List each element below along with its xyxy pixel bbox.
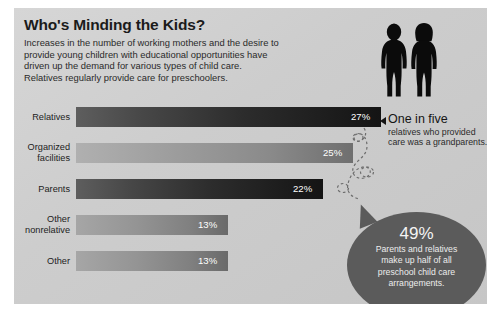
- two-children-silhouettes-icon: [369, 20, 449, 100]
- circle-text: 49% Parents and relatives make up half o…: [347, 224, 486, 290]
- bar-label-line: Other: [14, 256, 70, 267]
- bar-track: 13%: [76, 251, 228, 271]
- bar-label-line: Other: [14, 214, 70, 225]
- circle-body: Parents and relatives make up half of al…: [347, 244, 486, 290]
- bar-value-other: 13%: [198, 255, 217, 266]
- bar-label-line: facilities: [14, 153, 70, 164]
- infographic-panel: Who's Minding the Kids? Increases in the…: [14, 8, 487, 304]
- page-title: Who's Minding the Kids?: [24, 16, 205, 34]
- bar-value-relatives: 27%: [351, 111, 370, 122]
- circle-percent: 49%: [347, 224, 486, 243]
- intro-line-3: driven up the demand for various types o…: [24, 60, 354, 72]
- bar-label-line: Organized: [14, 142, 70, 153]
- bar-label-line: nonrelative: [14, 225, 70, 236]
- callout-one-in-five: One in five relatives who provided care …: [388, 113, 487, 147]
- bar-label-line: Relatives: [14, 112, 70, 123]
- bar-label-relatives: Relatives: [14, 112, 70, 123]
- circle-body-line-2: make up half of all: [347, 255, 486, 266]
- bar-label-line: Parents: [14, 184, 70, 195]
- bar-label-other: Other: [14, 256, 70, 267]
- intro-line-1: Increases in the number of working mothe…: [24, 37, 354, 49]
- bar-track: 22%: [76, 179, 323, 199]
- bar-track: 13%: [76, 215, 228, 235]
- bar-fill-relatives: [76, 107, 381, 127]
- bar-fill-parents: [76, 179, 323, 199]
- bar-fill-organized-facilities: [76, 143, 353, 163]
- bar-track: 25%: [76, 143, 353, 163]
- circle-callout-49-percent: 49% Parents and relatives make up half o…: [333, 198, 487, 304]
- bar-label-parents: Parents: [14, 184, 70, 195]
- circle-body-line-3: preschool child care: [347, 267, 486, 278]
- callout-body-line-1: relatives who provided: [388, 127, 487, 137]
- bar-value-other-nonrelative: 13%: [198, 219, 217, 230]
- intro-line-2: provide young children with educational …: [24, 49, 354, 61]
- bar-label-organized-facilities: Organized facilities: [14, 142, 70, 163]
- intro-paragraph: Increases in the number of working mothe…: [24, 37, 354, 83]
- circle-body-line-4: arrangements.: [347, 278, 486, 289]
- callout-body: relatives who provided care was a grandp…: [388, 127, 487, 147]
- bar-value-parents: 22%: [293, 183, 312, 194]
- callout-body-line-2: care was a grandparents.: [388, 137, 487, 147]
- bar-track: 27%: [76, 107, 381, 127]
- bar-label-other-nonrelative: Other nonrelative: [14, 214, 70, 235]
- left-arrow-icon: [380, 117, 386, 125]
- callout-headline: One in five: [388, 113, 487, 126]
- intro-line-4: Relatives regularly provide care for pre…: [24, 72, 354, 84]
- circle-body-line-1: Parents and relatives: [347, 244, 486, 255]
